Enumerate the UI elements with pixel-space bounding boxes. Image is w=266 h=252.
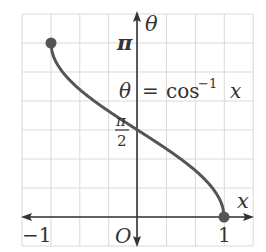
x-tick-neg-one: −1	[22, 223, 51, 247]
inverse-cosine-graph: θ x π π 2 −1 O 1 θ = cos −1 x	[0, 0, 266, 252]
endpoint-dot	[219, 212, 230, 223]
y-tick-half-pi-den: 2	[117, 132, 127, 150]
svg-text:θ: θ	[119, 79, 131, 103]
svg-text:cos: cos	[166, 79, 200, 103]
svg-text:x: x	[230, 79, 241, 103]
x-tick-one: 1	[218, 223, 231, 247]
endpoint-dot	[46, 38, 57, 49]
x-axis-label: x	[237, 189, 249, 213]
origin-label: O	[115, 224, 131, 248]
svg-text:=: =	[142, 79, 159, 103]
svg-text:−1: −1	[198, 76, 217, 91]
y-axis-label: θ	[145, 12, 158, 36]
y-tick-half-pi-num: π	[115, 112, 127, 130]
y-tick-pi: π	[116, 30, 133, 55]
